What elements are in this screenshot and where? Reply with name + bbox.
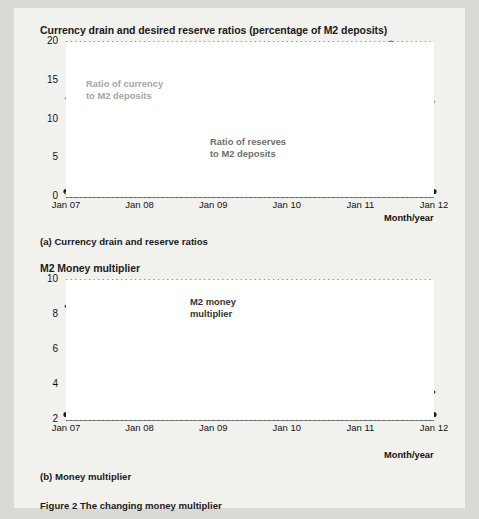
x-axis-tick-label: Jan 09 bbox=[186, 199, 240, 210]
series-label-currency-line1: Ratio of currency bbox=[86, 78, 163, 90]
y-axis-tick-label: 5 bbox=[36, 151, 58, 162]
x-axis-tick-label: Jan 07 bbox=[39, 199, 93, 210]
x-axis-tick-label: Jan 11 bbox=[333, 422, 387, 433]
x-axis-tick-label: Jan 12 bbox=[407, 199, 461, 210]
series-label-multiplier-line1: M2 money bbox=[190, 296, 236, 308]
plot-area-a bbox=[66, 42, 434, 197]
plot-area-b bbox=[66, 280, 434, 420]
x-axis-tick-label: Jan 12 bbox=[407, 422, 461, 433]
panel-a-axis-note: Month/year bbox=[384, 213, 434, 223]
y-axis-tick-label: 10 bbox=[36, 273, 58, 284]
figure-page: Currency drain and desired reserve ratio… bbox=[0, 0, 479, 519]
y-axis-tick-label: 4 bbox=[36, 378, 58, 389]
series-label-multiplier-line2: multiplier bbox=[190, 308, 236, 320]
y-axis-tick-label: 15 bbox=[36, 74, 58, 85]
x-axis-tick-label: Jan 08 bbox=[113, 199, 167, 210]
series-label-reserves-line2: to M2 deposits bbox=[210, 148, 286, 160]
series-label-reserves-line1: Ratio of reserves bbox=[210, 136, 286, 148]
y-axis-tick-label: 8 bbox=[36, 308, 58, 319]
y-axis-tick-label: 10 bbox=[36, 113, 58, 124]
x-axis-tick-label: Jan 08 bbox=[113, 422, 167, 433]
panel-b-axis-note: Month/year bbox=[384, 450, 434, 460]
chart-currency-reserve-ratios bbox=[14, 34, 465, 224]
x-axis-tick-label: Jan 10 bbox=[260, 422, 314, 433]
x-axis-tick-label: Jan 07 bbox=[39, 422, 93, 433]
panel-a-caption: (a) Currency drain and reserve ratios bbox=[40, 236, 208, 247]
figure-caption: Figure 2 The changing money multiplier bbox=[40, 500, 222, 511]
series-label-currency: Ratio of currency to M2 deposits bbox=[86, 78, 163, 101]
x-axis-tick-label: Jan 10 bbox=[260, 199, 314, 210]
y-axis-tick-label: 6 bbox=[36, 343, 58, 354]
panel-b-caption: (b) Money multiplier bbox=[40, 471, 131, 482]
y-axis-tick-label: 20 bbox=[36, 35, 58, 46]
series-label-currency-line2: to M2 deposits bbox=[86, 90, 163, 102]
figure-panel: Currency drain and desired reserve ratio… bbox=[14, 8, 465, 508]
series-label-reserves: Ratio of reserves to M2 deposits bbox=[210, 136, 286, 159]
x-axis-tick-label: Jan 11 bbox=[333, 199, 387, 210]
series-label-multiplier: M2 money multiplier bbox=[190, 296, 236, 319]
x-axis-tick-label: Jan 09 bbox=[186, 422, 240, 433]
chart-money-multiplier bbox=[14, 272, 465, 447]
